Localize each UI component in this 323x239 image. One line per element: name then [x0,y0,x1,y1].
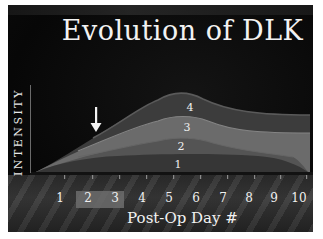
layer-label-2: 2 [178,140,185,153]
x-tick-label: 6 [184,191,208,205]
x-tick-label: 9 [262,191,286,205]
x-ticks [64,175,307,179]
x-tick-label: 4 [130,191,154,205]
slide-frame: Evolution of DLK 1 2 3 4 [8,5,313,232]
x-tick-label: 5 [157,191,181,205]
x-tick-label: 1 [48,191,72,205]
layer-label-4: 4 [187,101,194,114]
x-tick-label: 10 [287,191,311,205]
y-axis-line [30,85,31,173]
x-tick-label: 2 [76,191,100,205]
x-tick-label: 3 [103,191,127,205]
down-arrow-icon [91,107,102,132]
layer-label-1: 1 [175,158,182,171]
x-tick-label: 8 [237,191,261,205]
x-tick-label: 7 [211,191,235,205]
x-axis-label: Post-Op Day # [52,209,313,227]
layer-label-3: 3 [184,121,191,134]
y-axis-label: INTENSITY [12,87,26,177]
